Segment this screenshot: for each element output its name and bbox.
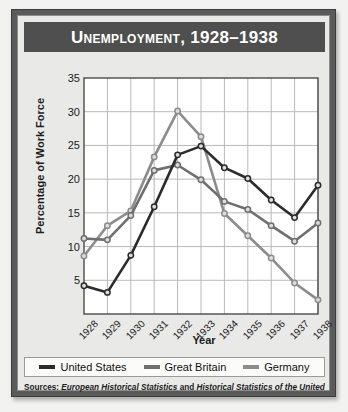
sources-conjunction: and: [180, 383, 195, 392]
sources-label: Sources:: [24, 383, 59, 392]
data-point: [105, 290, 110, 295]
data-point: [245, 233, 250, 238]
legend-label: Germany: [264, 361, 309, 373]
data-point: [198, 177, 203, 182]
legend-swatch-icon: [243, 365, 259, 369]
data-point: [222, 199, 227, 204]
plot-area: Percentage of Work Force 5101520253035 1…: [24, 56, 325, 353]
data-point: [105, 237, 110, 242]
legend-swatch-icon: [144, 365, 160, 369]
figure-root: Unemployment, 1928–1938 Percentage of Wo…: [0, 0, 348, 412]
legend-item[interactable]: Germany: [243, 361, 309, 373]
page-title: Unemployment, 1928–1938: [71, 29, 278, 46]
data-point: [152, 154, 157, 159]
data-point: [222, 211, 227, 216]
legend-label: Great Britain: [165, 361, 227, 373]
data-point: [81, 236, 86, 241]
legend-item[interactable]: Great Britain: [144, 361, 227, 373]
data-point: [245, 207, 250, 212]
data-point: [128, 253, 133, 258]
chart-title-banner: Unemployment, 1928–1938: [24, 22, 325, 52]
data-point: [81, 283, 86, 288]
data-point: [198, 143, 203, 148]
data-point: [292, 238, 297, 243]
sources-note: Sources: European Historical Statistics …: [24, 380, 325, 394]
data-point: [315, 297, 320, 302]
chart-legend: United StatesGreat BritainGermany: [24, 357, 325, 377]
chart-card: Percentage of Work Force 5101520253035 1…: [24, 56, 325, 353]
data-point: [269, 197, 274, 202]
data-point: [292, 280, 297, 285]
data-point: [128, 213, 133, 218]
data-point: [175, 108, 180, 113]
data-point: [175, 162, 180, 167]
figure-outer-frame: Unemployment, 1928–1938 Percentage of Wo…: [11, 9, 336, 397]
data-point: [105, 223, 110, 228]
legend-label: United States: [60, 361, 126, 373]
legend-item[interactable]: United States: [39, 361, 126, 373]
data-point: [152, 168, 157, 173]
data-point: [222, 165, 227, 170]
x-axis-title: Year: [84, 334, 324, 346]
sources-title-1: European Historical Statistics: [61, 383, 177, 392]
figure-inner-panel: Unemployment, 1928–1938 Percentage of Wo…: [17, 15, 330, 391]
data-point: [245, 176, 250, 181]
data-point: [198, 134, 203, 139]
data-point: [175, 152, 180, 157]
data-point: [315, 183, 320, 188]
sources-text: Sources: European Historical Statistics …: [24, 383, 325, 392]
data-point: [269, 223, 274, 228]
data-point: [269, 255, 274, 260]
data-point: [81, 253, 86, 258]
data-point: [292, 215, 297, 220]
data-point: [315, 220, 320, 225]
data-point: [152, 204, 157, 209]
sources-title-2: Historical Statistics of the United Stat…: [196, 383, 325, 392]
legend-swatch-icon: [39, 365, 55, 369]
